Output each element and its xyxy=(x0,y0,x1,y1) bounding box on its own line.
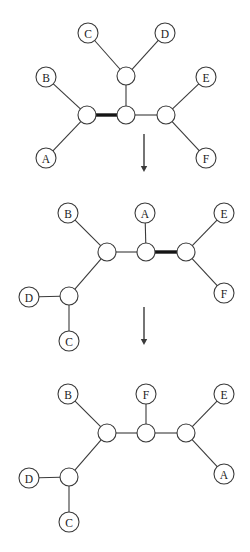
arrow-head xyxy=(141,166,147,172)
node-label-d: D xyxy=(25,292,33,304)
node-label-a: A xyxy=(141,208,150,220)
graph-top: ABCDEF xyxy=(36,23,216,168)
node-label-c: C xyxy=(65,517,73,529)
backbone-node xyxy=(117,67,135,85)
node-label-c: C xyxy=(65,336,73,348)
bond-single xyxy=(75,440,101,470)
bond-single xyxy=(145,223,146,243)
node-label-a: A xyxy=(42,153,51,165)
down-arrow-icon xyxy=(141,307,147,345)
down-arrow-icon xyxy=(141,134,147,172)
node-label-b: B xyxy=(64,208,72,220)
graph-rewriting-figure: ABCDEFBAEDFCBFEDAC xyxy=(0,0,250,552)
node-label-d: D xyxy=(25,473,33,485)
backbone-node xyxy=(157,106,175,124)
figure-canvas: ABCDEFBAEDFCBFEDAC xyxy=(0,0,250,552)
node-label-f: F xyxy=(221,288,227,300)
backbone-node xyxy=(117,106,135,124)
bond-single xyxy=(192,401,217,426)
node-label-b: B xyxy=(64,389,72,401)
bond-single xyxy=(53,122,81,151)
bond-single xyxy=(95,40,120,69)
bond-single xyxy=(172,122,199,151)
node-label-e: E xyxy=(220,389,227,401)
backbone-node xyxy=(98,243,116,261)
node-label-e: E xyxy=(220,208,227,220)
bond-single xyxy=(192,220,217,245)
backbone-node xyxy=(78,106,96,124)
bond-single xyxy=(75,401,101,427)
backbone-node xyxy=(137,424,155,442)
node-label-c: C xyxy=(84,28,92,40)
bond-single xyxy=(192,440,217,467)
bond-single xyxy=(192,259,217,286)
bond-single xyxy=(75,220,101,246)
backbone-node xyxy=(60,287,78,305)
graph-bottom: BFEDAC xyxy=(19,384,234,532)
bond-single xyxy=(173,84,199,109)
bond-single xyxy=(75,259,101,289)
bond-single xyxy=(39,477,60,478)
node-label-d: D xyxy=(161,28,169,40)
backbone-node xyxy=(177,243,195,261)
bond-single xyxy=(132,40,158,69)
bond-single xyxy=(53,84,80,109)
backbone-node xyxy=(137,243,155,261)
backbone-node xyxy=(177,424,195,442)
graph-middle: BAEDFC xyxy=(19,203,234,351)
node-label-a: A xyxy=(220,469,229,481)
node-label-e: E xyxy=(202,72,209,84)
node-label-b: B xyxy=(42,72,50,84)
node-label-f: F xyxy=(143,389,149,401)
backbone-node xyxy=(60,468,78,486)
arrow-head xyxy=(141,339,147,345)
node-label-f: F xyxy=(203,153,209,165)
bond-single xyxy=(39,296,60,297)
backbone-node xyxy=(98,424,116,442)
